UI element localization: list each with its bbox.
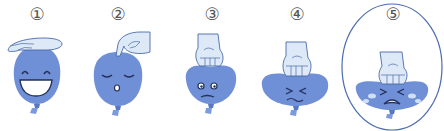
stage-3-fist-icon <box>196 34 223 66</box>
stage-1-balloon <box>14 46 61 114</box>
stage-5-balloon <box>356 81 429 119</box>
tear-left <box>368 94 376 99</box>
stage-1-hand-icon <box>8 38 62 52</box>
stage-5-fist-icon <box>379 52 407 84</box>
stage-3-balloon <box>186 66 237 114</box>
tear-right <box>408 94 416 99</box>
stage-2-hand-icon <box>116 32 150 56</box>
illustration-canvas <box>0 0 444 131</box>
stage-4-fist-icon <box>283 42 311 76</box>
stage-2-balloon <box>94 52 143 116</box>
stage-4-balloon <box>262 74 329 117</box>
